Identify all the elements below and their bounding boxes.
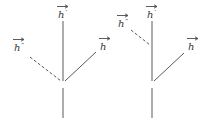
- right-tree-right-label: h: [188, 40, 195, 52]
- vector-arrow-icon: [57, 4, 69, 9]
- prime-mark: ′: [154, 9, 156, 17]
- right-tree-top-label: h′: [147, 8, 156, 20]
- prime-mark: ″: [125, 18, 128, 26]
- vector-symbol: h: [118, 17, 124, 29]
- left-tree-solid-branch: [65, 52, 96, 81]
- left-tree: [30, 21, 96, 118]
- right-tree-left-label: h″: [118, 17, 128, 29]
- vector-symbol: h: [100, 40, 106, 52]
- vector-symbol: h: [58, 8, 64, 20]
- right-tree-solid-branch: [154, 53, 184, 81]
- left-tree-dashed-branch: [30, 57, 61, 81]
- vector-arrow-icon: [99, 36, 111, 41]
- vector-arrow-icon: [117, 13, 129, 18]
- vector-symbol: h: [147, 8, 153, 20]
- prime-mark: ′: [65, 9, 67, 17]
- prime-mark: ″: [21, 42, 24, 50]
- vector-arrow-icon: [146, 4, 158, 9]
- vector-arrow-icon: [187, 36, 199, 41]
- left-tree-left-label: h″: [14, 41, 24, 53]
- vector-arrow-icon: [13, 37, 25, 42]
- right-tree: [131, 21, 184, 118]
- vector-symbol: h: [14, 41, 20, 53]
- left-tree-top-label: h′: [58, 8, 67, 20]
- vector-symbol: h: [188, 40, 194, 52]
- right-tree-dashed-branch: [131, 30, 150, 45]
- vector-diagram: [0, 0, 208, 128]
- left-tree-right-label: h: [100, 40, 107, 52]
